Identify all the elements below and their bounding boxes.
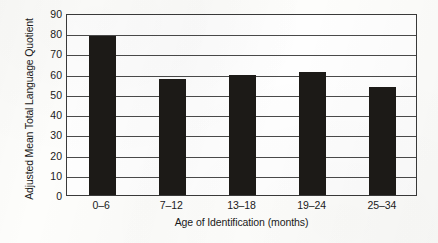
y-axis-tick-label: 60: [38, 70, 62, 80]
x-axis-tick-label: 13–18: [212, 199, 272, 211]
y-axis-tick-label: 70: [38, 49, 62, 59]
x-axis-tick-label: 25–34: [352, 199, 412, 211]
y-axis-tick-label: 80: [38, 29, 62, 39]
y-axis-tick-labels: 0102030405060708090: [38, 0, 62, 243]
bars-group: [67, 15, 416, 195]
bar: [229, 75, 256, 195]
y-axis-tick-label: 10: [38, 171, 62, 181]
bar: [89, 36, 116, 195]
bar: [369, 87, 396, 195]
y-axis-tick-label: 0: [38, 191, 62, 201]
y-axis-tick-label: 30: [38, 130, 62, 140]
bar: [299, 72, 326, 195]
y-axis-title: Adjusted Mean Total Language Quotient: [23, 14, 35, 204]
plot-area: [66, 14, 417, 196]
x-axis-title: Age of Identification (months): [66, 216, 417, 228]
x-axis-tick-label: 7–12: [141, 199, 201, 211]
x-axis-tick-labels: 0–67–1213–1819–2425–34: [66, 199, 417, 213]
y-axis-tick-label: 20: [38, 151, 62, 161]
bar-chart-figure: Adjusted Mean Total Language Quotient 01…: [0, 0, 438, 243]
x-axis-tick-label: 0–6: [71, 199, 131, 211]
y-axis-tick-label: 50: [38, 90, 62, 100]
x-axis-tick-label: 19–24: [282, 199, 342, 211]
bar: [159, 79, 186, 195]
y-axis-tick-label: 90: [38, 9, 62, 19]
y-axis-tick-label: 40: [38, 110, 62, 120]
